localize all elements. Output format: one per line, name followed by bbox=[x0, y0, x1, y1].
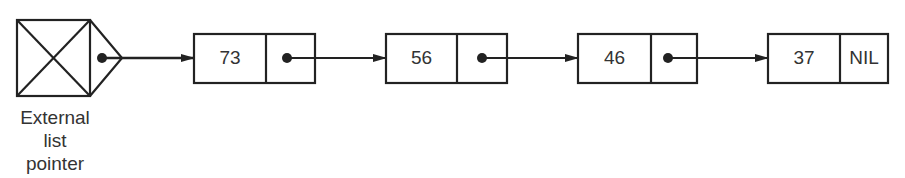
label-line-3: pointer bbox=[5, 152, 105, 175]
external-pointer-label: External list pointer bbox=[5, 106, 105, 175]
node-4-info: 37 bbox=[768, 47, 840, 69]
label-line-2: list bbox=[5, 129, 105, 152]
node-4-next-nil: NIL bbox=[840, 47, 888, 69]
node-1-info: 73 bbox=[194, 47, 266, 69]
node-2-info: 56 bbox=[386, 47, 457, 69]
linked-list-diagram bbox=[0, 0, 905, 178]
node-3-info: 46 bbox=[578, 47, 651, 69]
label-line-1: External bbox=[5, 106, 105, 129]
